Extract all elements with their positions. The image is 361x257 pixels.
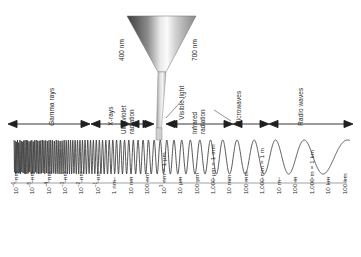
scale-tick-label: 1,000 m = 1 km xyxy=(308,150,314,194)
electromagnetic-spectrum-diagram: 400 nm 700 nm xyxy=(0,0,361,257)
scale-tick-label: 1,000 mm = 1 m xyxy=(259,148,265,194)
scale-tick-label: 100 km xyxy=(341,173,347,194)
scale-tick-label: 100 µm xyxy=(193,173,199,194)
scale-tick-label: 100 nm xyxy=(144,173,150,194)
scale-tick-label: 10 km xyxy=(325,177,331,194)
scale-tick-label: 103 nm = 1 µm xyxy=(160,152,166,194)
scale-tick-label: 10–5 nm xyxy=(29,171,35,194)
scale-tick-label: 10 m xyxy=(276,180,282,194)
scale-tick-label: 10 µm xyxy=(177,176,183,194)
scale-tick-label: 10–2 nm xyxy=(78,171,84,194)
scale-tick-label: 10–6 nm xyxy=(12,171,18,194)
scale-tick-label: 100 mm xyxy=(243,171,249,194)
scale-tick-label: 10–1 nm xyxy=(95,171,101,194)
scale-tick-label: 100 m xyxy=(292,177,298,195)
scale-tick-label: 10 nm xyxy=(128,177,134,195)
scale-tick-label: 10–3 nm xyxy=(62,171,68,194)
scale-tick-label: 10–4 nm xyxy=(45,171,51,194)
scale-tick-label: 1,000 µm = 1 mm xyxy=(210,144,216,194)
waveform-path xyxy=(14,140,350,174)
waveform-graphic xyxy=(0,0,361,257)
scale-tick-label: 10 mm xyxy=(226,175,232,194)
scale-tick-label: 1 nm xyxy=(111,180,117,194)
